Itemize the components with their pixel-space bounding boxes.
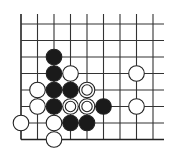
black-stone [79,115,95,131]
white-stone [46,115,62,131]
white-stone-icon [129,99,145,115]
white-stone-icon [30,82,46,98]
black-stone [46,82,62,98]
white-stone [63,66,79,82]
black-stone [46,49,62,65]
white-stone [13,115,29,131]
go-board-diagram [0,0,178,160]
white-stone-icon [63,66,79,82]
black-stone [63,82,79,98]
white-stone [129,99,145,115]
black-stone-icon [46,99,62,115]
white-stone-icon [129,66,145,82]
black-stone-icon [46,82,62,98]
black-stone-icon [46,49,62,65]
black-stone-icon [63,82,79,98]
black-stone-icon [79,115,95,131]
black-stone [46,99,62,115]
black-stone [96,99,112,115]
black-stone-icon [63,115,79,131]
stones-layer [13,49,144,147]
white-stone-marked [63,99,79,115]
white-stone-icon [46,132,62,148]
black-stone-icon [96,99,112,115]
white-stone [30,99,46,115]
white-stone-icon [13,115,29,131]
black-stone [63,115,79,131]
white-stone [129,66,145,82]
white-stone-icon [46,115,62,131]
white-stone [30,82,46,98]
black-stone [46,66,62,82]
black-stone-icon [46,66,62,82]
white-stone-marked [79,99,95,115]
white-stone-icon [30,99,46,115]
white-stone-marked [79,82,95,98]
white-stone [46,132,62,148]
